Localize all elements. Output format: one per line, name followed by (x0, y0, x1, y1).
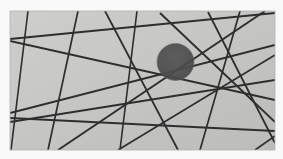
line-arrangement-canvas (0, 0, 283, 159)
figure-root (0, 0, 283, 159)
